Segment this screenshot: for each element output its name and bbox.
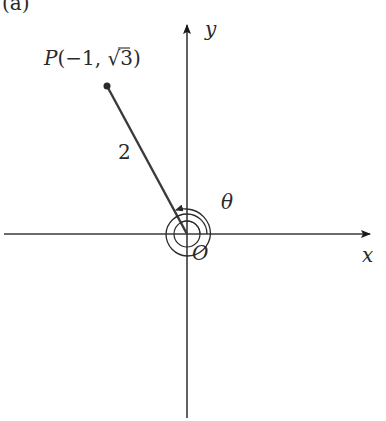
x-axis-label: x: [362, 243, 373, 267]
point-p-name: P: [43, 46, 58, 70]
coord-separator: ,: [95, 46, 108, 70]
polar-angle-diagram: (a) P(−1, √3) 2 θ O x y: [0, 0, 386, 421]
point-p-dot: [104, 83, 111, 90]
segment-length-label: 2: [118, 140, 131, 164]
panel-label: (a): [2, 0, 30, 15]
paren-open: (: [57, 46, 65, 70]
sqrt-sign: √: [107, 46, 120, 70]
point-x-coord: −1: [65, 46, 94, 70]
point-y-radicand: 3: [120, 46, 133, 70]
origin-label: O: [192, 241, 208, 265]
point-p-label: P(−1, √3): [43, 46, 141, 70]
theta-label: θ: [221, 190, 233, 214]
paren-close: ): [133, 46, 141, 70]
y-axis-label: y: [204, 17, 217, 41]
